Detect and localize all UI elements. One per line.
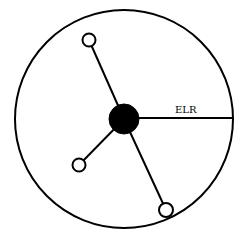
elr-label: ELR [175,104,197,115]
satellite-node-bottom-right [159,203,173,217]
central-node [109,104,139,134]
satellite-node-top [83,34,96,47]
satellite-node-lower-left [73,159,86,172]
elr-diagram: ELR [0,0,246,243]
